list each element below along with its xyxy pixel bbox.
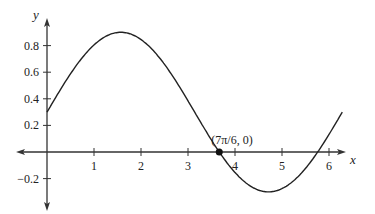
y-tick-label: 0.2 [24, 118, 39, 132]
y-axis-label: y [31, 7, 39, 22]
x-tick-label: 1 [91, 159, 97, 173]
intercept-point [216, 149, 223, 156]
y-tick-label: 0.8 [24, 39, 39, 53]
chart: xy1234560.80.60.40.2−0.2(7π/6, 0) [0, 0, 375, 214]
x-tick-label: 5 [279, 159, 285, 173]
y-tick-label: 0.4 [24, 92, 39, 106]
x-axis-label: x [349, 152, 356, 167]
y-tick-label: 0.6 [24, 65, 39, 79]
chart-svg: xy1234560.80.60.40.2−0.2(7π/6, 0) [0, 0, 375, 214]
intercept-label: (7π/6, 0) [211, 133, 252, 147]
x-tick-label: 3 [185, 159, 191, 173]
x-tick-label: 6 [326, 159, 332, 173]
y-tick-label: −0.2 [17, 172, 39, 186]
x-tick-label: 2 [138, 159, 144, 173]
